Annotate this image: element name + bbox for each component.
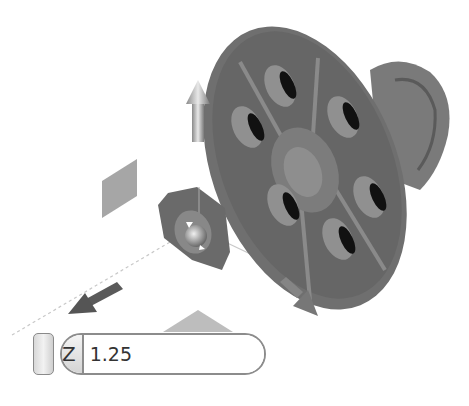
drag-grip-handle[interactable] bbox=[33, 333, 54, 375]
value-pill: Z bbox=[60, 333, 266, 375]
plane-handle[interactable] bbox=[102, 159, 137, 218]
axis-label[interactable]: Z bbox=[62, 335, 84, 373]
value-field[interactable] bbox=[84, 335, 266, 373]
left-arrow-handle[interactable] bbox=[68, 282, 123, 314]
rotate-handle[interactable] bbox=[163, 310, 233, 332]
value-input-box: Z bbox=[33, 333, 266, 375]
